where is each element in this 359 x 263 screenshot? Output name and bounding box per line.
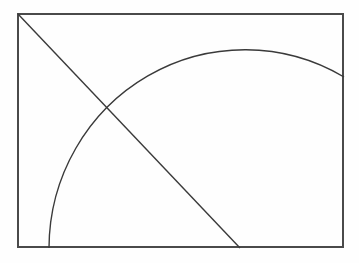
bounding-rectangle (18, 14, 343, 247)
diagonal-line (18, 14, 240, 248)
elliptical-arc (49, 50, 344, 248)
figure-canvas (0, 0, 359, 263)
figure-svg (0, 0, 359, 263)
